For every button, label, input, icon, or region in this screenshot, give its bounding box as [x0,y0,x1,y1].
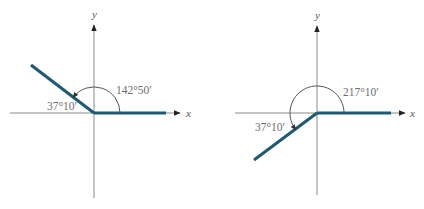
angle-label: 142°50′ [116,84,152,96]
reference-angle-label: 37°10′ [255,121,285,133]
reference-angle-label: 37°10′ [47,100,77,112]
angle-arc [73,87,120,113]
angle-label: 217°10′ [343,86,379,98]
x-axis-label: x [409,107,415,119]
y-axis-label: y [91,8,97,20]
angle-diagrams: x y 142°50′ 37°10′ x y 217°10′ 37°10′ [0,0,424,209]
x-axis-label: x [185,107,191,119]
y-axis-label: y [314,9,320,21]
figure-left: x y 142°50′ 37°10′ [10,8,191,198]
figure-right: x y 217°10′ 37°10′ [235,9,415,195]
